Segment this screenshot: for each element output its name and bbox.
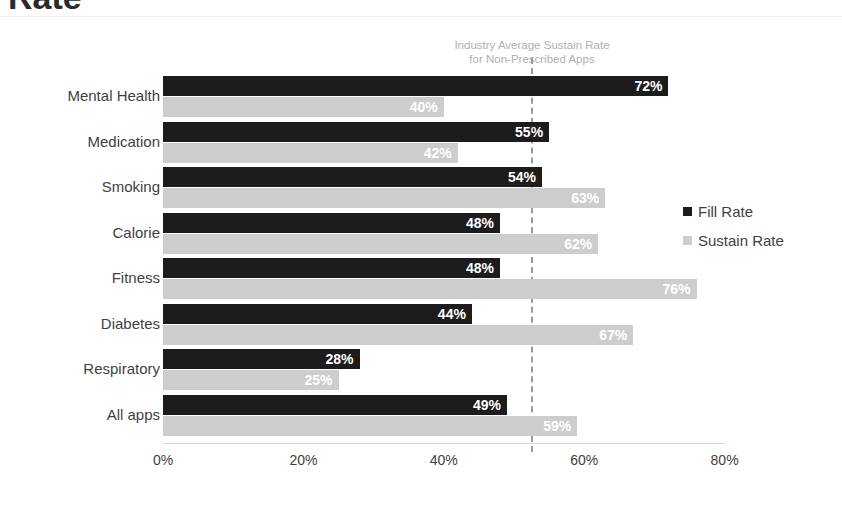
fill-rate-bar: 28% [163, 349, 360, 369]
bar-value-label: 49% [473, 397, 501, 413]
sustain-rate-bar: 40% [163, 97, 444, 117]
bar-value-label: 72% [634, 78, 662, 94]
bar-value-label: 44% [438, 306, 466, 322]
category-label: Respiratory [0, 360, 160, 377]
chart-row: Medication55%42% [0, 122, 842, 166]
category-label: Fitness [0, 269, 160, 286]
sustain-rate-bar: 63% [163, 188, 605, 208]
page-title: Rate [8, 0, 82, 17]
bar-value-label: 48% [466, 260, 494, 276]
horizontal-bar-chart: Rate Industry Average Sustain Rate for N… [0, 0, 842, 508]
chart-row: Respiratory28%25% [0, 349, 842, 393]
x-axis-tick-label: 0% [133, 452, 193, 468]
sustain-rate-bar: 59% [163, 416, 577, 436]
fill-rate-bar: 48% [163, 213, 500, 233]
bar-value-label: 76% [662, 281, 690, 297]
sustain-rate-bar: 67% [163, 325, 633, 345]
sustain-rate-bar: 76% [163, 279, 697, 299]
sustain-rate-bar: 25% [163, 370, 339, 390]
bar-value-label: 62% [564, 236, 592, 252]
sustain-rate-bar: 62% [163, 234, 598, 254]
bar-value-label: 67% [599, 327, 627, 343]
category-label: Medication [0, 133, 160, 150]
legend-label: Fill Rate [698, 203, 753, 220]
bar-value-label: 54% [508, 169, 536, 185]
bar-value-label: 55% [515, 124, 543, 140]
x-axis-tick-label: 60% [554, 452, 614, 468]
fill-rate-bar: 49% [163, 395, 507, 415]
chart-legend: Fill RateSustain Rate [683, 203, 784, 261]
fill-rate-bar: 72% [163, 76, 668, 96]
category-label: Calorie [0, 224, 160, 241]
fill-rate-bar: 54% [163, 167, 542, 187]
x-axis-tick-label: 80% [695, 452, 755, 468]
bar-value-label: 28% [326, 351, 354, 367]
fill-rate-bar: 55% [163, 122, 549, 142]
legend-swatch-icon [683, 236, 692, 245]
legend-item[interactable]: Fill Rate [683, 203, 784, 220]
sustain-rate-bar: 42% [163, 143, 458, 163]
title-divider [0, 16, 842, 17]
bar-value-label: 40% [410, 99, 438, 115]
annotation-line-1: Industry Average Sustain Rate [402, 38, 662, 52]
legend-swatch-icon [683, 207, 692, 216]
category-label: All apps [0, 406, 160, 423]
chart-row: Fitness48%76% [0, 258, 842, 302]
bar-value-label: 63% [571, 190, 599, 206]
category-label: Smoking [0, 178, 160, 195]
category-label: Diabetes [0, 315, 160, 332]
chart-row: Diabetes44%67% [0, 304, 842, 348]
fill-rate-bar: 44% [163, 304, 472, 324]
x-axis-line [163, 443, 725, 444]
bar-value-label: 59% [543, 418, 571, 434]
x-axis-tick-label: 40% [414, 452, 474, 468]
category-label: Mental Health [0, 87, 160, 104]
legend-item[interactable]: Sustain Rate [683, 232, 784, 249]
x-axis-tick-label: 20% [273, 452, 333, 468]
bar-value-label: 48% [466, 215, 494, 231]
bar-value-label: 42% [424, 145, 452, 161]
chart-row: Mental Health72%40% [0, 76, 842, 120]
chart-row: All apps49%59% [0, 395, 842, 439]
legend-label: Sustain Rate [698, 232, 784, 249]
bar-value-label: 25% [304, 372, 332, 388]
fill-rate-bar: 48% [163, 258, 500, 278]
